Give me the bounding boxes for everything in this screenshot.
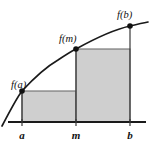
label-axis-b: b (127, 129, 133, 141)
riemann-sum-figure: f(a) f(m) f(b) a m b (0, 0, 152, 145)
left-rectangle (22, 91, 76, 122)
label-f-a: f(a) (11, 79, 27, 91)
point-f-m (73, 46, 79, 52)
figure-canvas: f(a) f(m) f(b) a m b (0, 0, 152, 145)
right-rectangle (76, 49, 130, 122)
point-f-b (127, 23, 133, 29)
label-axis-m: m (72, 129, 81, 141)
label-f-b: f(b) (117, 9, 133, 21)
label-f-m: f(m) (59, 33, 77, 45)
label-axis-a: a (19, 129, 25, 141)
